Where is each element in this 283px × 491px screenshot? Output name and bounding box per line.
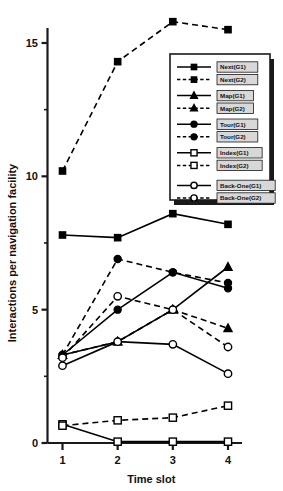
marker-filled-square	[225, 221, 231, 227]
y-tick-label: 15	[26, 37, 38, 49]
marker-open-circle	[59, 354, 66, 361]
marker-open-square	[114, 438, 121, 445]
x-tick-label: 3	[170, 454, 176, 466]
marker-filled-circle	[169, 269, 176, 276]
y-tick-label: 10	[26, 170, 38, 182]
series-back-oneg1	[59, 338, 232, 377]
legend-label: Map(G1)	[220, 92, 245, 99]
series-indexg2	[59, 402, 232, 429]
marker-filled-square	[115, 235, 121, 241]
marker-filled-circle	[191, 121, 197, 127]
series-indexg1	[59, 421, 232, 446]
legend-label: Index(G1)	[220, 149, 249, 156]
marker-open-square	[59, 422, 66, 429]
marker-open-circle	[114, 338, 121, 345]
marker-open-circle	[191, 195, 197, 201]
y-axis-title: Interactions per navigation facility	[6, 163, 18, 342]
series-path	[63, 259, 229, 355]
series-path	[63, 214, 229, 238]
series-path	[63, 406, 229, 426]
legend-label: Map(G2)	[220, 105, 245, 112]
chart-figure: 0510151234Time slotInteractions per navi…	[0, 0, 283, 491]
marker-open-circle	[114, 293, 121, 300]
marker-filled-square	[191, 77, 196, 82]
marker-open-circle	[169, 341, 176, 348]
legend-label: Tour(G2)	[220, 133, 246, 140]
marker-open-circle	[169, 306, 176, 313]
marker-filled-circle	[191, 134, 197, 140]
marker-open-circle	[224, 343, 231, 350]
marker-open-circle	[224, 370, 231, 377]
series-mapg2	[59, 305, 233, 358]
marker-filled-square	[170, 19, 176, 25]
marker-filled-circle	[225, 280, 232, 287]
x-tick-label: 2	[115, 454, 121, 466]
marker-filled-square	[59, 232, 65, 238]
y-tick-label: 5	[32, 304, 38, 316]
x-tick-label: 4	[225, 454, 232, 466]
series-mapg1	[59, 263, 233, 359]
marker-open-square	[114, 417, 121, 424]
legend-label: Index(G2)	[220, 162, 249, 169]
legend-label: Back-One(G1)	[220, 182, 261, 189]
marker-filled-square	[170, 211, 176, 217]
series-path	[63, 424, 229, 441]
legend-label: Next(G2)	[220, 76, 246, 83]
series-path	[63, 310, 229, 355]
marker-filled-square	[191, 64, 196, 69]
marker-filled-circle	[114, 306, 121, 313]
marker-open-square	[169, 438, 176, 445]
series-path	[63, 342, 229, 374]
legend-label: Tour(G1)	[220, 121, 246, 128]
marker-filled-triangle	[224, 263, 232, 271]
x-tick-label: 1	[59, 454, 65, 466]
marker-filled-square	[225, 27, 231, 33]
marker-open-square	[169, 414, 176, 421]
series-back-oneg2	[59, 293, 232, 362]
x-axis-title: Time slot	[127, 473, 175, 485]
legend-label: Back-One(G2)	[220, 194, 261, 201]
y-tick-label: 0	[32, 437, 38, 449]
series-tourg1	[59, 269, 232, 359]
marker-open-circle	[191, 182, 197, 188]
series-nextg1	[59, 211, 231, 241]
marker-open-circle	[59, 362, 66, 369]
marker-open-square	[224, 438, 231, 445]
chart-legend: Next(G1)Next(G2)Map(G1)Map(G2)Tour(G1)To…	[170, 54, 275, 205]
legend-label: Next(G1)	[220, 63, 246, 70]
marker-filled-square	[59, 168, 65, 174]
line-chart-svg: 0510151234Time slotInteractions per navi…	[0, 0, 283, 491]
marker-filled-square	[115, 59, 121, 65]
marker-open-square	[191, 150, 197, 156]
marker-open-square	[191, 162, 197, 168]
marker-filled-circle	[114, 256, 121, 263]
marker-open-square	[224, 402, 231, 409]
